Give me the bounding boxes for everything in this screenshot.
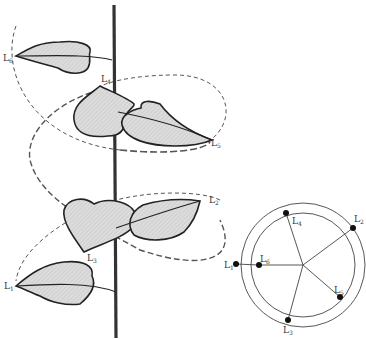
diag-label-l5: L5 bbox=[334, 285, 344, 296]
leaf-l3 bbox=[64, 199, 137, 252]
label-l6: L6 bbox=[3, 53, 13, 64]
diag-label-l4: L4 bbox=[292, 216, 302, 227]
diag-label-l1: L1 bbox=[224, 260, 234, 271]
diag-label-l3: L3 bbox=[283, 325, 293, 336]
stem-labels: L6 L4 L5 L2 L3 L1 bbox=[3, 53, 221, 292]
leaf-l6 bbox=[16, 42, 112, 74]
label-l5: L5 bbox=[211, 138, 221, 149]
diag-label-l2: L2 bbox=[354, 214, 364, 225]
stem bbox=[114, 5, 116, 338]
leaf-l1 bbox=[16, 262, 116, 305]
diag-label-l6: L6 bbox=[260, 254, 270, 265]
phyllotaxy-figure: L6 L4 L5 L2 L3 L1 L4 L2 L6 L1 L5 L3 bbox=[0, 0, 366, 340]
label-l2: L2 bbox=[209, 195, 219, 206]
label-l3: L3 bbox=[87, 253, 97, 264]
label-l1: L1 bbox=[4, 281, 14, 292]
label-l4: L4 bbox=[101, 74, 111, 85]
